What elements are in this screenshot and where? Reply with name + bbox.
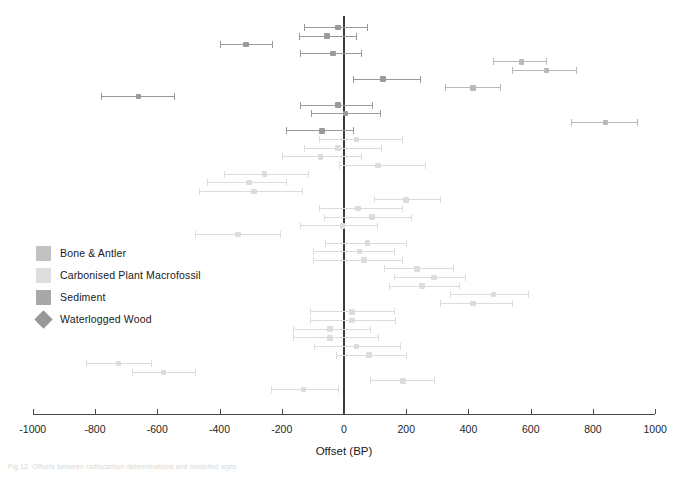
error-bar-cap xyxy=(546,58,547,65)
error-bar-cap xyxy=(302,188,303,195)
data-point-marker xyxy=(403,197,409,203)
legend-item-0[interactable]: Bone & Antler xyxy=(36,242,201,264)
data-point-marker xyxy=(419,283,425,289)
data-point-marker xyxy=(349,318,355,324)
data-point-marker xyxy=(357,249,363,255)
error-bar-cap xyxy=(402,136,403,143)
error-bar-cap xyxy=(381,145,382,152)
error-bar-cap xyxy=(220,41,221,48)
x-tick xyxy=(95,409,96,414)
data-point-marker xyxy=(380,76,386,82)
error-bar-cap xyxy=(310,308,311,315)
error-bar-cap xyxy=(370,326,371,333)
error-bar-cap xyxy=(500,84,501,91)
data-point-marker xyxy=(414,266,420,272)
error-bar-cap xyxy=(319,136,320,143)
x-tick xyxy=(344,409,345,414)
data-point-marker xyxy=(136,94,142,100)
error-bar-cap xyxy=(195,369,196,376)
error-bar xyxy=(319,139,401,140)
error-bar xyxy=(293,337,379,338)
error-bar-cap xyxy=(356,33,357,40)
error-bar-cap xyxy=(132,369,133,376)
legend-item-1[interactable]: Carbonised Plant Macrofossil xyxy=(36,264,201,286)
legend-item-label: Sediment xyxy=(60,291,106,303)
x-tick-label: -600 xyxy=(127,423,187,435)
legend-swatch-icon xyxy=(34,310,52,328)
legend-item-label: Waterlogged Wood xyxy=(60,313,152,325)
error-bar-cap xyxy=(406,352,407,359)
error-bar-cap xyxy=(389,283,390,290)
legend-item-2[interactable]: Sediment xyxy=(36,286,201,308)
data-point-marker xyxy=(327,335,333,341)
error-bar-cap xyxy=(314,343,315,350)
data-point-marker xyxy=(330,51,336,57)
error-bar-cap xyxy=(313,248,314,255)
data-point-marker xyxy=(243,42,249,48)
forest-plot: -1000-800-600-400-20002004006008001000 O… xyxy=(0,0,676,478)
error-bar xyxy=(300,225,376,226)
x-tick xyxy=(33,409,34,414)
error-bar-cap xyxy=(411,214,412,221)
error-bar-cap xyxy=(325,240,326,247)
legend: Bone & AntlerCarbonised Plant Macrofossi… xyxy=(36,242,201,330)
error-bar-cap xyxy=(308,171,309,178)
error-bar-cap xyxy=(199,188,200,195)
legend-swatch-icon xyxy=(36,290,51,305)
error-bar-cap xyxy=(286,127,287,134)
error-bar-cap xyxy=(353,127,354,134)
error-bar-cap xyxy=(440,196,441,203)
error-bar-cap xyxy=(512,300,513,307)
error-bar-cap xyxy=(313,257,314,264)
figure-root: -1000-800-600-400-20002004006008001000 O… xyxy=(0,0,676,478)
error-bar-cap xyxy=(286,179,287,186)
error-bar-cap xyxy=(402,205,403,212)
legend-swatch-icon xyxy=(36,246,51,261)
data-point-marker xyxy=(246,180,252,186)
error-bar-cap xyxy=(207,179,208,186)
data-point-marker xyxy=(354,137,360,143)
data-point-marker xyxy=(544,68,550,74)
error-bar-cap xyxy=(372,102,373,109)
data-point-marker xyxy=(355,206,361,212)
data-point-marker xyxy=(491,292,497,298)
x-tick xyxy=(531,409,532,414)
data-point-marker xyxy=(470,301,476,307)
x-tick-label: 200 xyxy=(376,423,436,435)
legend-item-label: Bone & Antler xyxy=(60,247,126,259)
error-bar-cap xyxy=(378,334,379,341)
error-bar-cap xyxy=(272,41,273,48)
error-bar-cap xyxy=(425,162,426,169)
error-bar-cap xyxy=(420,76,421,83)
x-tick-label: -400 xyxy=(190,423,250,435)
data-point-marker xyxy=(335,102,341,108)
error-bar-cap xyxy=(101,93,102,100)
x-tick xyxy=(593,409,594,414)
error-bar-cap xyxy=(394,308,395,315)
error-bar xyxy=(313,251,394,252)
error-bar-cap xyxy=(353,76,354,83)
error-bar-cap xyxy=(377,222,378,229)
error-bar-cap xyxy=(304,145,305,152)
error-bar xyxy=(324,217,411,218)
error-bar-cap xyxy=(151,360,152,367)
data-point-marker xyxy=(340,223,346,229)
data-point-marker xyxy=(116,361,122,367)
error-bar-cap xyxy=(367,24,368,31)
data-point-marker xyxy=(375,163,381,169)
data-point-marker xyxy=(361,257,367,263)
error-bar-cap xyxy=(374,196,375,203)
error-bar-cap xyxy=(400,343,401,350)
error-bar xyxy=(339,165,425,166)
x-tick-label: 1000 xyxy=(625,423,676,435)
legend-item-3[interactable]: Waterlogged Wood xyxy=(36,308,201,330)
error-bar-cap xyxy=(459,283,460,290)
x-tick-label: -800 xyxy=(65,423,125,435)
error-bar-cap xyxy=(394,274,395,281)
data-point-marker xyxy=(324,33,330,39)
x-tick-label: 0 xyxy=(314,423,374,435)
error-bar-cap xyxy=(370,377,371,384)
data-point-marker xyxy=(251,189,257,195)
x-tick-label: 400 xyxy=(438,423,498,435)
error-bar-cap xyxy=(528,291,529,298)
